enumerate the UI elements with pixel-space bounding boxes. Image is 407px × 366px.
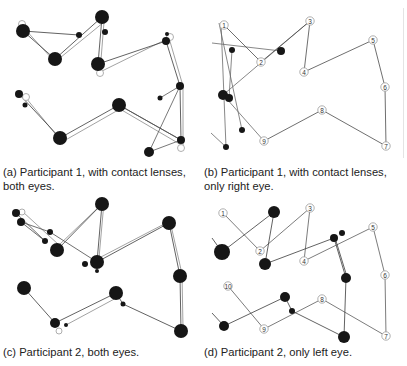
- fixation-dot: [64, 323, 68, 327]
- fixation-number-label: 6: [383, 84, 387, 91]
- gaze-path-segment: [16, 213, 45, 241]
- fixation-dot: [173, 269, 187, 283]
- fixation-dot: [90, 255, 104, 269]
- gaze-path-segment: [226, 98, 264, 141]
- fixation-dot: [268, 206, 280, 218]
- fixation-dot: [339, 230, 345, 236]
- fixation-dot: [76, 32, 82, 38]
- fixation-dot: [12, 209, 20, 217]
- fixation-number-label: 6: [383, 272, 387, 279]
- fixation-dot: [219, 321, 229, 331]
- panel-a-scanpath: [15, 10, 185, 157]
- caption-panel-d: (d) Participant 2, only left eye.: [204, 345, 404, 359]
- caption-panel-c: (c) Participant 2, both eyes.: [3, 345, 203, 359]
- fixation-dot: [165, 32, 169, 36]
- fixation-number-label: 1: [221, 210, 225, 217]
- fixation-number-label: 2: [259, 59, 263, 66]
- fixation-number-label: 8: [320, 296, 324, 303]
- panel-border-line: [403, 8, 404, 158]
- reference-scanpath: [223, 208, 386, 336]
- fixation-number-label: 4: [302, 258, 306, 265]
- fixation-dot: [23, 103, 28, 108]
- fixation-dot: [91, 57, 105, 71]
- fixation-dot: [162, 216, 176, 230]
- fixation-dot: [259, 258, 271, 270]
- fixation-dot: [229, 47, 235, 53]
- fixation-dot: [17, 281, 31, 295]
- fixation-dot: [280, 292, 290, 302]
- fixation-number-label: 9: [262, 138, 266, 145]
- fixation-number-label: 3: [308, 205, 312, 212]
- fixation-number-label: 7: [384, 143, 388, 150]
- fixation-ring-marker: [56, 328, 62, 334]
- caption-panel-a: (a) Participant 1, with contact lenses, …: [3, 165, 203, 193]
- fixation-number-label: 8: [320, 107, 324, 114]
- fixation-dot: [48, 52, 62, 66]
- fixation-dot: [330, 234, 338, 242]
- fixation-ring-marker: [178, 145, 185, 152]
- fixation-number-label: 1: [222, 22, 226, 29]
- fixation-dot: [15, 90, 23, 98]
- fixation-dot: [177, 136, 185, 144]
- panel-d-scanpath: 12345678910: [212, 204, 390, 343]
- fixation-dot: [225, 94, 233, 102]
- fixation-dot: [338, 331, 350, 343]
- gaze-path-segment: [66, 297, 118, 325]
- gaze-path-extra: [119, 86, 181, 152]
- gaze-path-segment: [23, 31, 79, 35]
- fixation-dot: [223, 144, 229, 150]
- fixation-dot: [42, 238, 48, 244]
- fixation-dot: [174, 324, 188, 338]
- fixation-dot: [17, 218, 25, 226]
- fixation-number-label: 5: [371, 224, 375, 231]
- fixation-dot: [277, 47, 285, 55]
- fixation-dot: [112, 98, 126, 112]
- fixation-dot: [50, 318, 60, 328]
- fixation-dot: [95, 197, 109, 211]
- fixation-number-label: 3: [308, 18, 312, 25]
- fixation-dot: [95, 269, 99, 273]
- fixation-ring-marker: [23, 94, 30, 101]
- fixation-number-label: 7: [384, 333, 388, 340]
- fixation-dot: [214, 244, 230, 260]
- fixation-dot: [50, 243, 64, 257]
- fixation-number-label: 9: [262, 326, 266, 333]
- fixation-dot: [95, 10, 109, 24]
- fixation-dot: [158, 96, 163, 101]
- fixation-number-label: 4: [302, 69, 306, 76]
- gaze-path-segment: [211, 133, 226, 147]
- fixation-number-label: 5: [371, 37, 375, 44]
- fixation-dot: [144, 147, 154, 157]
- fixation-number-label: 10: [224, 283, 232, 290]
- fixation-dot: [53, 131, 67, 145]
- gaze-path-primary: [19, 17, 181, 140]
- fixation-dot: [121, 302, 126, 307]
- reference-scanpath: [224, 21, 386, 146]
- fixation-dot: [239, 127, 245, 133]
- fixation-dot: [102, 29, 108, 35]
- fixation-dot: [47, 229, 53, 235]
- fixation-dot: [341, 273, 351, 283]
- fixation-dot: [16, 24, 30, 38]
- panel-b-scanpath: 123456789: [211, 17, 390, 150]
- fixation-number-label: 2: [258, 248, 262, 255]
- fixation-dot: [162, 37, 170, 45]
- gaze-path-primary: [212, 212, 346, 337]
- fixation-dot: [289, 308, 295, 314]
- fixation-dot: [109, 286, 123, 300]
- fixation-ring-marker: [19, 209, 25, 215]
- gaze-path-segment: [221, 23, 226, 147]
- fixation-dot: [176, 82, 184, 90]
- caption-panel-b: (b) Participant 1, with contact lenses, …: [204, 165, 404, 193]
- fixation-dot: [82, 261, 88, 267]
- gaze-path-segment: [229, 50, 232, 98]
- gaze-path-segment: [21, 222, 45, 241]
- panel-c-scanpath: [12, 197, 188, 338]
